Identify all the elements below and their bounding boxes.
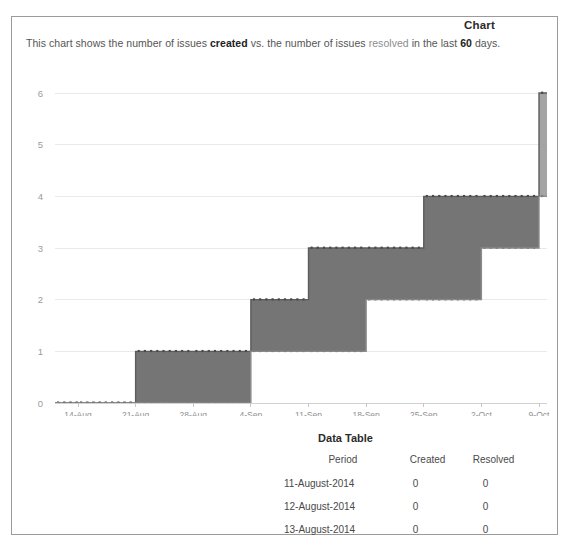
data-point-marker <box>278 350 280 352</box>
description-part-2: vs. the number of issues <box>248 37 369 49</box>
x-tick-label: 25-Sep <box>410 410 438 416</box>
data-point-marker <box>214 350 216 352</box>
data-point-marker <box>508 247 510 249</box>
data-point-marker <box>253 298 255 300</box>
data-point-marker <box>387 247 389 249</box>
data-point-marker <box>426 298 428 300</box>
data-point-marker <box>290 350 292 352</box>
data-point-marker <box>533 247 535 249</box>
data-point-marker <box>418 298 420 300</box>
y-axis-tick-labels: 0123456 <box>38 88 43 409</box>
x-tick-label: 11-Sep <box>295 410 322 416</box>
description-part-1: This chart shows the number of issues <box>26 37 210 49</box>
data-point-marker <box>426 195 428 197</box>
data-point-marker <box>208 350 210 352</box>
data-point-marker <box>521 195 523 197</box>
chart-description: This chart shows the number of issues cr… <box>26 37 500 49</box>
y-tick-label: 6 <box>38 88 43 99</box>
data-table-block: Data Table Period Created Resolved 11-Au… <box>12 432 559 541</box>
data-point-marker <box>469 195 471 197</box>
data-point-marker <box>253 350 255 352</box>
data-point-marker <box>393 247 395 249</box>
description-part-4: days. <box>472 37 500 49</box>
x-tick-label: 9-Oct <box>529 410 550 416</box>
data-point-marker <box>399 247 401 249</box>
data-point-marker <box>393 298 395 300</box>
table-row: 13-August-201400 <box>280 518 540 541</box>
data-point-marker <box>432 298 434 300</box>
data-point-marker <box>432 195 434 197</box>
data-point-marker <box>138 350 140 352</box>
cell-period: 11-August-2014 <box>280 472 406 495</box>
column-header-period: Period <box>280 453 406 472</box>
x-tick-label: 28-Aug <box>180 410 208 416</box>
data-point-marker <box>475 298 477 300</box>
data-point-marker <box>354 247 356 249</box>
data-point-marker <box>169 350 171 352</box>
data-point-marker <box>496 195 498 197</box>
table-header-row: Period Created Resolved <box>280 453 540 472</box>
data-point-marker <box>496 247 498 249</box>
created-vs-resolved-area-chart: 0123456 14-Aug21-Aug28-Aug4-Sep11-Sep18-… <box>12 61 559 416</box>
data-point-marker <box>527 195 529 197</box>
data-point-marker <box>150 350 152 352</box>
table-row: 12-August-201400 <box>280 495 540 518</box>
data-point-marker <box>239 350 241 352</box>
data-point-marker <box>317 247 319 249</box>
data-point-marker <box>259 298 261 300</box>
cell-period: 13-August-2014 <box>280 518 406 541</box>
data-table: Period Created Resolved 11-August-201400… <box>280 453 540 541</box>
data-point-marker <box>381 298 383 300</box>
data-point-marker <box>195 350 197 352</box>
data-point-marker <box>278 298 280 300</box>
cell-created: 0 <box>406 495 469 518</box>
x-tick-label: 14-Aug <box>64 410 92 416</box>
data-point-marker <box>387 298 389 300</box>
data-point-marker <box>521 247 523 249</box>
data-point-marker <box>156 350 158 352</box>
y-tick-label: 3 <box>38 243 43 254</box>
data-point-marker <box>354 350 356 352</box>
data-point-marker <box>348 350 350 352</box>
data-point-marker <box>259 350 261 352</box>
data-point-marker <box>368 247 370 249</box>
data-point-marker <box>399 298 401 300</box>
data-point-marker <box>348 247 350 249</box>
data-point-marker <box>490 247 492 249</box>
data-point-marker <box>245 350 247 352</box>
data-point-marker <box>412 247 414 249</box>
data-point-marker <box>418 247 420 249</box>
data-point-marker <box>181 350 183 352</box>
data-point-marker <box>360 247 362 249</box>
data-point-marker <box>483 195 485 197</box>
data-point-marker <box>342 247 344 249</box>
data-table-title: Data Table <box>132 432 559 444</box>
data-point-marker <box>290 298 292 300</box>
chart-gadget-panel: Chart This chart shows the number of iss… <box>11 16 558 535</box>
area-band-tail <box>539 93 547 196</box>
y-tick-label: 2 <box>38 294 43 305</box>
cell-created: 0 <box>406 518 469 541</box>
page-title: Chart <box>464 19 495 31</box>
description-created-keyword: created <box>210 37 248 49</box>
description-part-3: in the last <box>409 37 460 49</box>
data-point-marker <box>323 350 325 352</box>
data-point-marker <box>541 195 543 197</box>
y-tick-label: 5 <box>38 139 43 150</box>
data-point-marker <box>541 92 543 94</box>
data-point-marker <box>342 350 344 352</box>
cell-resolved: 0 <box>469 495 540 518</box>
data-point-marker <box>451 298 453 300</box>
data-point-marker <box>284 350 286 352</box>
data-point-marker <box>284 298 286 300</box>
data-point-marker <box>527 247 529 249</box>
data-point-marker <box>232 350 234 352</box>
data-point-marker <box>311 350 313 352</box>
y-tick-label: 1 <box>38 346 43 357</box>
data-point-marker <box>335 350 337 352</box>
data-point-marker <box>438 298 440 300</box>
data-point-marker <box>502 195 504 197</box>
description-resolved-keyword: resolved <box>369 37 409 49</box>
y-tick-label: 4 <box>38 191 43 202</box>
data-point-marker <box>444 195 446 197</box>
